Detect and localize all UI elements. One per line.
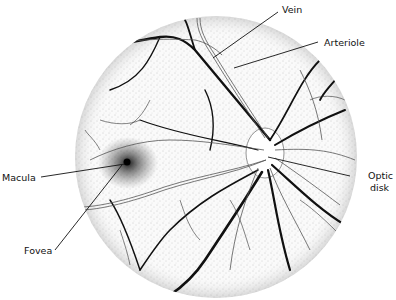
label-fovea: Fovea: [24, 245, 52, 256]
label-macula: Macula: [2, 172, 36, 183]
label-disk: disk: [370, 182, 389, 193]
label-vein: Vein: [282, 4, 302, 15]
label-arteriole: Arteriole: [324, 37, 365, 48]
label-optic: Optic: [368, 170, 393, 181]
